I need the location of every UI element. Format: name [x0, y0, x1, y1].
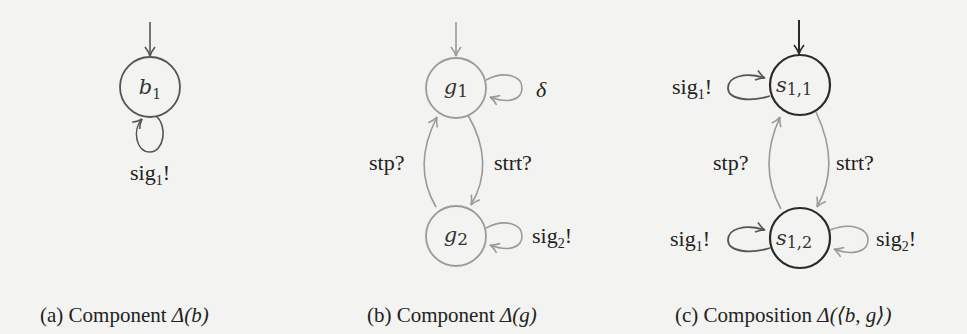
caption-a: (a) Component Δ(b) — [40, 303, 209, 327]
state-b1-sub: 1 — [152, 86, 161, 102]
self-loop-g2-sig2 — [486, 223, 522, 248]
edge-label-s12-sig1: sig1! — [670, 226, 710, 254]
svg-text:g2: g2 — [444, 223, 468, 249]
panel-c-composition: s1,1 sig1! s1,2 strt? stp? sig1! sig2! — [670, 20, 916, 327]
state-s11: s1,1 — [770, 55, 830, 115]
edge-label-s-stp: stp? — [713, 150, 748, 175]
edge-label-delta: δ — [536, 77, 547, 102]
state-b1: b1 — [120, 57, 180, 117]
panel-a-component-b: b1 sig1! (a) Component Δ(b) — [40, 22, 209, 327]
edge-label-stp: stp? — [369, 150, 404, 175]
edge-s11-s12-strt — [816, 112, 829, 207]
edge-label-s12-sig2: sig2! — [876, 226, 916, 254]
svg-text:g1: g1 — [444, 75, 468, 101]
self-loop-s12-sig1 — [728, 227, 770, 251]
edge-label-sig1: sig1! — [130, 160, 170, 188]
edge-label-s-strt: strt? — [836, 150, 874, 175]
svg-text:s1,2: s1,2 — [776, 226, 812, 252]
svg-text:s1,1: s1,1 — [776, 73, 812, 99]
self-loop-s12-sig2 — [830, 226, 868, 252]
svg-text:b1: b1 — [139, 75, 161, 102]
self-loop-b1-sig1 — [136, 116, 163, 152]
edge-g2-g1-stp — [424, 117, 437, 207]
self-loop-s11-sig1 — [728, 75, 770, 99]
edge-label-sig2: sig2! — [532, 223, 572, 251]
state-g2: g2 — [426, 206, 486, 266]
state-g1: g1 — [426, 58, 486, 118]
figure-canvas: b1 sig1! (a) Component Δ(b) g1 δ g2 — [0, 0, 967, 334]
edge-label-strt: strt? — [494, 150, 532, 175]
state-s12: s1,2 — [770, 208, 830, 268]
edge-s12-s11-stp — [769, 117, 781, 209]
caption-b: (b) Component Δ(g) — [367, 303, 537, 327]
caption-c: (c) Composition Δ(⟨b, g⟩) — [675, 303, 892, 327]
edge-label-s11-sig1: sig1! — [672, 74, 712, 102]
self-loop-g1-delta — [486, 75, 522, 100]
edge-g1-g2-strt — [468, 115, 483, 205]
state-b1-name: b — [139, 75, 152, 99]
panel-b-component-g: g1 δ g2 strt? stp? sig2! (b) Component Δ… — [367, 22, 572, 327]
